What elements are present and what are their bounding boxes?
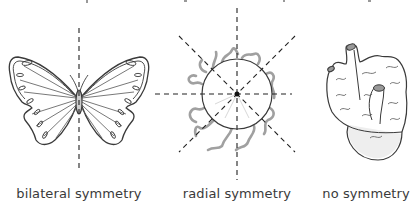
anemone-illustration: [189, 48, 275, 150]
sponge-illustration: [327, 43, 407, 160]
radial-center-point: [235, 92, 240, 97]
cutoff-caption-text: [86, 0, 371, 3]
label-bilateral-symmetry: bilateral symmetry: [16, 186, 141, 201]
label-radial-symmetry: radial symmetry: [183, 186, 291, 201]
symmetry-diagram: [0, 0, 420, 213]
label-no-symmetry: no symmetry: [322, 186, 409, 201]
